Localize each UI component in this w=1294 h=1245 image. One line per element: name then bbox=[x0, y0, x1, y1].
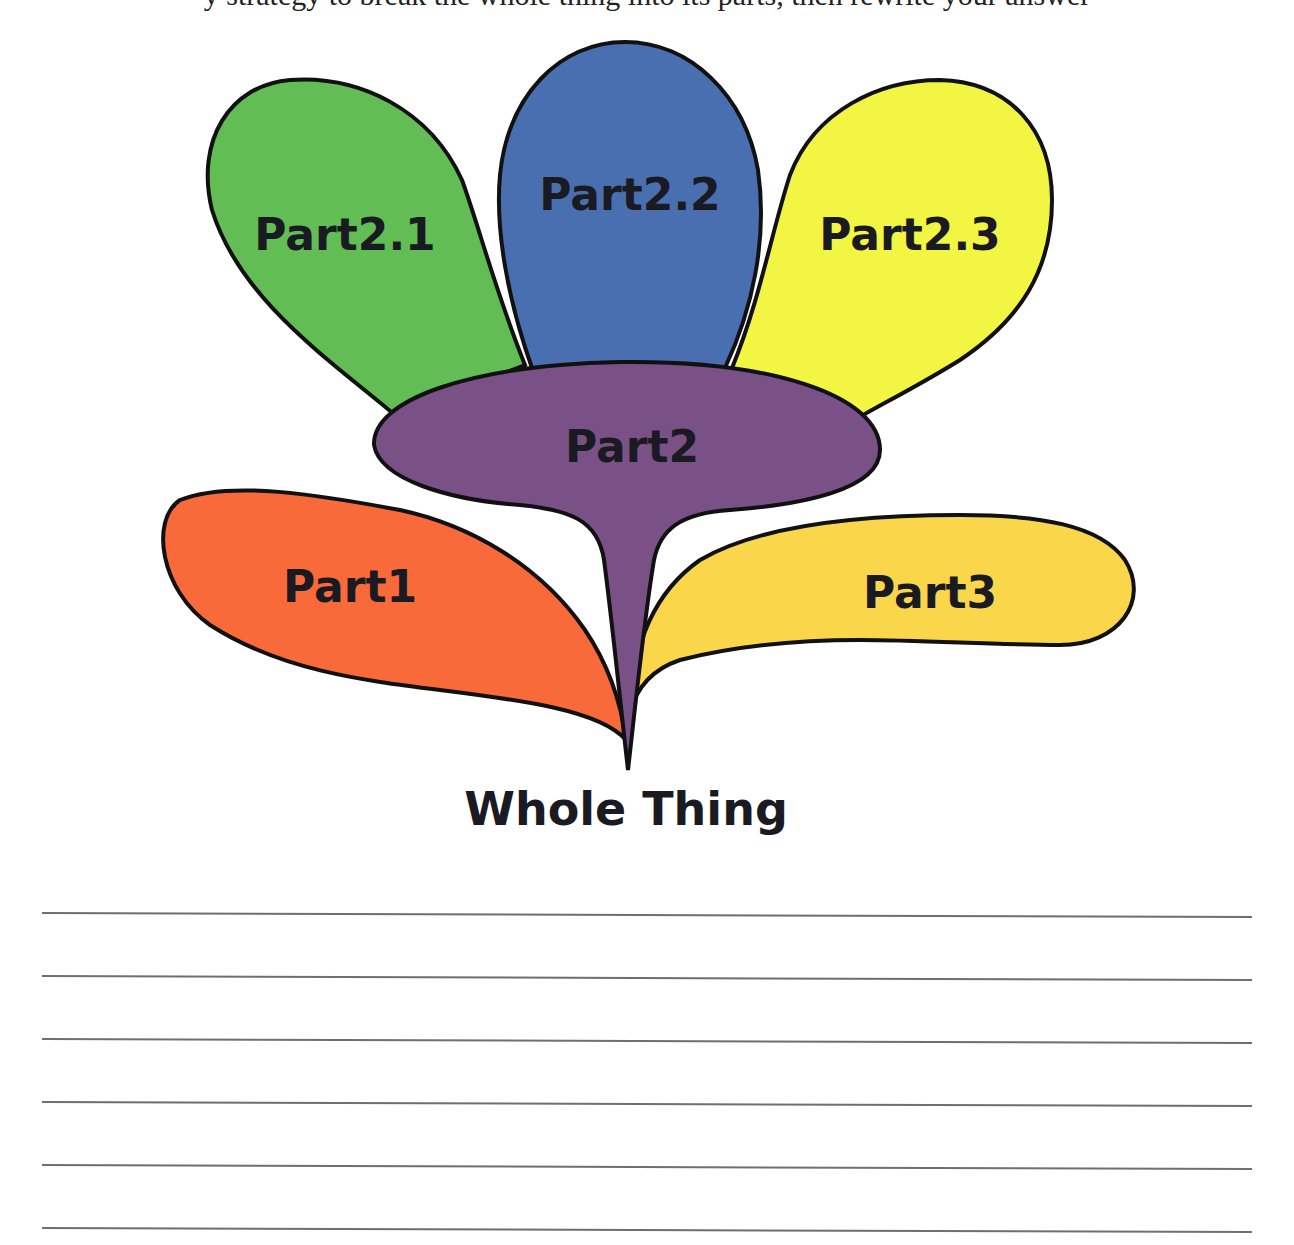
label-whole-thing: Whole Thing bbox=[464, 782, 788, 836]
writing-line bbox=[42, 1165, 1252, 1169]
writing-lines bbox=[42, 913, 1252, 1232]
petal-part2-3: Part2.3 bbox=[732, 80, 1052, 418]
petal-part2-1: Part2.1 bbox=[208, 80, 525, 415]
petal-part1: Part1 bbox=[163, 490, 626, 740]
label-part2-1: Part2.1 bbox=[254, 209, 435, 260]
petal-shape bbox=[163, 490, 626, 740]
writing-line bbox=[42, 1228, 1252, 1232]
label-part2-2: Part2.2 bbox=[539, 169, 720, 220]
label-part2-3: Part2.3 bbox=[819, 209, 1000, 260]
writing-line bbox=[42, 1102, 1252, 1106]
writing-line bbox=[42, 976, 1252, 980]
writing-line bbox=[42, 913, 1252, 917]
label-part1: Part1 bbox=[283, 561, 417, 612]
writing-line bbox=[42, 1039, 1252, 1043]
part-whole-diagram: Part2.1 Part2.2 Part2.3 Part1 Part3 Part… bbox=[0, 0, 1294, 1245]
label-part3: Part3 bbox=[863, 567, 997, 618]
label-part2: Part2 bbox=[565, 421, 699, 472]
petal-part2-2: Part2.2 bbox=[499, 42, 761, 368]
petal-part3: Part3 bbox=[630, 515, 1134, 712]
